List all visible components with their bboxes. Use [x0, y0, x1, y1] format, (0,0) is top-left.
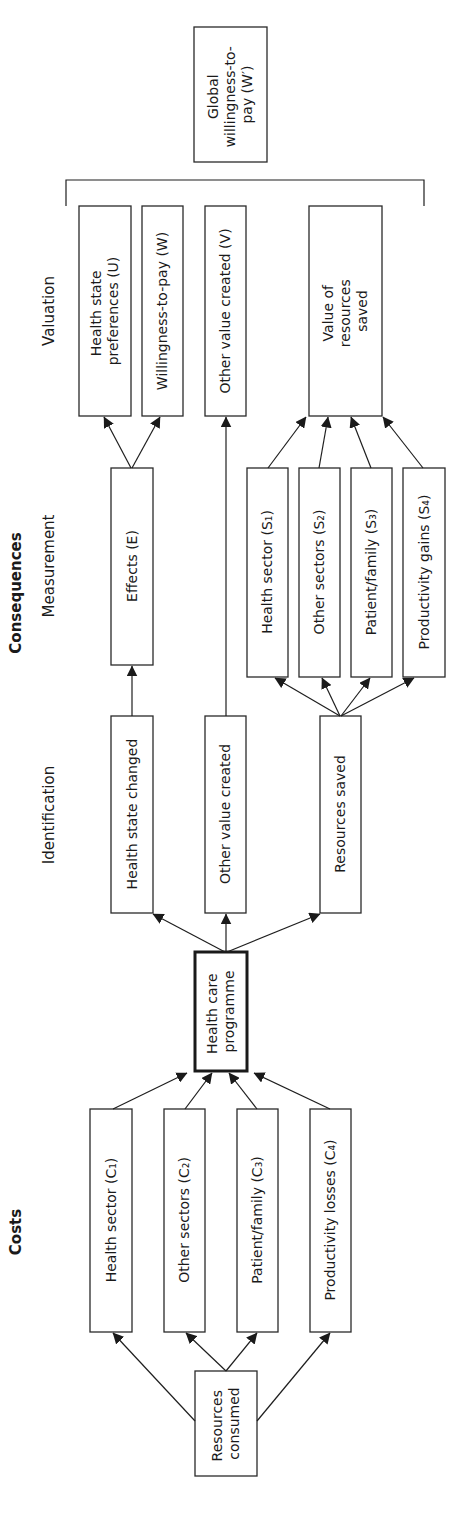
svg-text:Other value created: Other value created — [217, 744, 233, 884]
economic-evaluation-diagram: Costs Consequences Identification Measur… — [0, 0, 471, 1529]
valuation-bracket — [66, 180, 424, 206]
svg-text:Health sector (S₁): Health sector (S₁) — [259, 510, 275, 634]
hcp-line2: programme — [221, 970, 237, 1052]
svg-text:Health state preferences: Health state preferences (U) — [88, 257, 121, 366]
header-consequences: Consequences — [7, 532, 25, 653]
node-effects: Effects (E) — [111, 468, 153, 665]
global-wtp-line3: pay (W′) — [239, 65, 255, 123]
node-saved-patient-family: Patient/family (S₃) — [351, 468, 392, 677]
svg-text:Health sector (C₁): Health sector (C₁) — [103, 1158, 119, 1283]
node-saved-other-sectors: Other sectors (S₂) — [299, 468, 340, 677]
svg-text:Productivity losses (C₄): Productivity losses (C₄) — [322, 1139, 338, 1300]
node-resources-saved: Resources saved — [320, 716, 361, 913]
global-wtp-line2: willingness-to- — [222, 46, 238, 147]
node-other-value-created-v: Other value created (V) — [205, 206, 246, 416]
svg-text:Health state changed: Health state changed — [124, 739, 140, 890]
node-willingness-to-pay: Willingness-to-pay (W) — [142, 206, 183, 416]
vrs-line1: Value of — [320, 284, 336, 341]
node-resources-consumed: Resources consumed — [195, 1371, 257, 1476]
svg-text:Patient/family (S₃): Patient/family (S₃) — [363, 509, 379, 636]
node-cost-productivity-losses: Productivity losses (C₄) — [310, 1109, 351, 1332]
hcp-line1: Health care — [204, 973, 220, 1054]
node-health-state-preferences: Health state preferences (U) — [79, 206, 131, 416]
node-saved-health-sector: Health sector (S₁) — [247, 468, 288, 677]
header-valuation: Valuation — [40, 276, 58, 346]
hsp-line2: preferences (U) — [105, 257, 121, 366]
svg-text:Willingness-to-pay (W): Willingness-to-pay (W) — [154, 232, 170, 390]
node-health-state-changed: Health state changed — [111, 716, 153, 913]
svg-text:Resources saved: Resources saved — [332, 755, 348, 873]
header-measurement: Measurement — [40, 514, 58, 617]
vrs-line3: saved — [354, 290, 370, 332]
node-saved-productivity-gains: Productivity gains (S₄) — [403, 468, 445, 677]
vrs-line2: resources — [337, 279, 353, 347]
hsp-line1: Health state — [88, 270, 104, 356]
node-cost-other-sectors: Other sectors (C₂) — [164, 1109, 205, 1332]
svg-text:Patient/family (C₃): Patient/family (C₃) — [249, 1156, 265, 1283]
svg-text:Resources consumed: Resources consumed — [209, 1386, 242, 1462]
svg-text:Effects (E): Effects (E) — [124, 530, 140, 602]
header-costs: Costs — [7, 1209, 25, 1255]
node-cost-patient-family: Patient/family (C₃) — [237, 1109, 278, 1332]
node-cost-health-sector: Health sector (C₁) — [90, 1109, 132, 1332]
rc-line2: consumed — [226, 1387, 242, 1459]
svg-text:Other sectors (C₂): Other sectors (C₂) — [176, 1157, 192, 1283]
header-identification: Identification — [40, 766, 58, 864]
svg-text:Other value created (V): Other value created (V) — [217, 228, 233, 393]
svg-text:Health care programme: Health care programme — [204, 969, 237, 1054]
rc-line1: Resources — [209, 1390, 225, 1462]
svg-text:Other sectors (S₂): Other sectors (S₂) — [311, 510, 327, 635]
node-health-care-programme: Health care programme — [195, 952, 247, 1071]
node-global-willingness-to-pay: Global willingness-to- pay (W′) — [194, 27, 267, 162]
svg-text:Productivity gains (S₄): Productivity gains (S₄) — [416, 495, 432, 650]
node-value-of-resources-saved: Value of resources saved — [309, 206, 382, 416]
node-other-value-created: Other value created — [205, 716, 246, 913]
global-wtp-line1: Global — [205, 74, 221, 119]
